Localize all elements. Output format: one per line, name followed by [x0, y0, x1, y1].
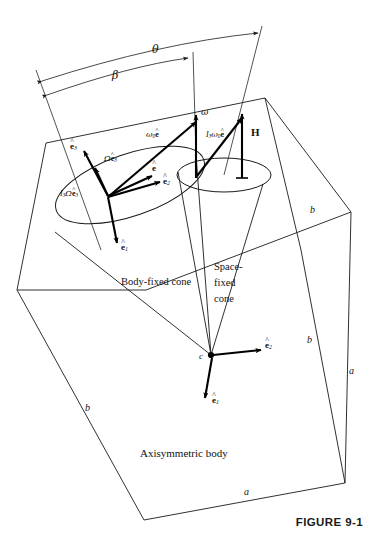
- edge-label-a-right-vertical: a: [349, 366, 354, 376]
- I3-Omega-ehat3-hat-mark: ^: [72, 186, 75, 193]
- figure-caption: FIGURE 9-1: [296, 516, 363, 528]
- Omega-ehat3-greek: Ω: [104, 154, 111, 163]
- vector-label-ehat2-top: ^e2: [163, 177, 170, 187]
- vector-label-H: H: [251, 127, 260, 138]
- label-space-fixed-cone-line3: cone: [214, 294, 234, 305]
- label-axisymmetric-body: Axisymmetric body: [140, 448, 228, 459]
- vector-label-ehat3-top: ^e3: [70, 142, 77, 152]
- ehat1-top-hat-mark: ^: [121, 239, 125, 247]
- vector-label-I3-omega0-ehat: I3ω0^e: [206, 131, 224, 139]
- edge-label-b-lower-left: b: [85, 403, 90, 413]
- space-fixed-cone: [177, 158, 271, 355]
- I3-Omega-ehat3-greek: Ω: [65, 189, 72, 198]
- edge-label-b-upper-right: b: [310, 205, 315, 215]
- ehat2-top-sub: 2: [167, 180, 170, 186]
- edge-label-b-lower-right: b: [307, 335, 312, 345]
- Omega-ehat3-hat-mark: ^: [111, 151, 114, 158]
- label-apex-c: c: [199, 352, 203, 361]
- vector-label-ehat: ^e: [152, 164, 156, 173]
- vector-label-ehat1-bottom: ^e1: [212, 396, 219, 406]
- ehat2-bottom-sub: 2: [269, 344, 272, 350]
- ehat-hat-mark: ^: [152, 160, 156, 168]
- ehat2-bottom-hat-mark: ^: [265, 337, 269, 345]
- vector-label-I3-Omega-ehat3: I3Ω^e3: [60, 190, 78, 198]
- vector-label-omega0-ehat: ω0^e: [146, 131, 159, 139]
- omega0-ehat-hat-mark: ^: [155, 127, 158, 134]
- vector-label-omega: ω: [201, 108, 208, 117]
- ehat3-top-sub: 3: [74, 145, 77, 151]
- vector-label-ehat2-bottom: ^e2: [265, 341, 272, 351]
- ehat1-top-sub: 1: [125, 246, 128, 252]
- label-body-fixed-cone: Body-fixed cone: [121, 277, 191, 288]
- I3-omega0-ehat-hat-mark: ^: [221, 127, 224, 134]
- label-space-fixed-cone-line1: Space-: [214, 262, 243, 273]
- angle-label-theta: θ: [152, 44, 159, 55]
- figure-root: θ β ω ω0^e I3ω0^e H ^e3 Ω^e3 I3Ω^e3 ^e ^…: [0, 0, 371, 544]
- ehat2-top-hat-mark: ^: [163, 173, 167, 181]
- ehat3-top-hat-mark: ^: [70, 138, 74, 146]
- ehat1-bottom-hat-mark: ^: [212, 392, 216, 400]
- vector-label-Omega-ehat3: Ω^e3: [104, 155, 117, 163]
- ehat1-bottom-sub: 1: [216, 399, 219, 405]
- Omega-ehat3-sub: 3: [114, 157, 117, 163]
- edge-label-a-bottom: a: [244, 487, 249, 497]
- angle-label-beta: β: [112, 70, 118, 81]
- vector-label-ehat1-top: ^e1: [121, 243, 128, 253]
- label-space-fixed-cone-line2: fixed: [214, 278, 236, 289]
- figure-drawing: [0, 0, 371, 544]
